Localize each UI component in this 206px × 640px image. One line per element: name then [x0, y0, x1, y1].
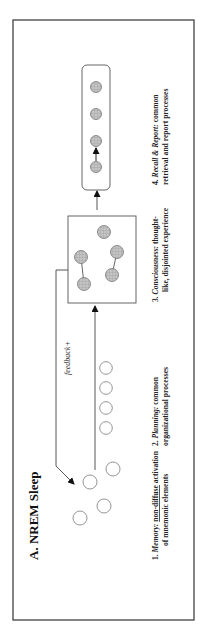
nrem-sleep-diagram: A. NREM Sleep feedback+: [0, 0, 206, 640]
svg-text:3. Consciousness: thou: 3. Consciousness: thought-: [151, 216, 160, 302]
svg-text:2. Planning: common: 2. Planning: common: [151, 376, 160, 446]
svg-text:4. Recall & Report: co: 4. Recall & Report: common: [151, 94, 160, 185]
svg-text:1. Memory: non: 1. Memory: non-diffuse activation: [151, 450, 160, 560]
svg-text:like, disjointed experience: like, disjointed experience: [161, 207, 170, 292]
svg-text:of mnemonic elements: of mnemonic elements: [161, 474, 170, 546]
svg-text:organizational processes: organizational processes: [161, 367, 170, 446]
memory-elements: [73, 462, 120, 525]
consciousness-box: [68, 216, 136, 303]
stage-label-planning: 2. Planning: common organizational proce…: [151, 367, 170, 446]
feedback-label: feedback+: [63, 341, 72, 375]
recall-report-box: [82, 65, 110, 190]
stage-label-consciousness: 3. Consciousness: thought- like, disjoin…: [151, 207, 170, 302]
figure-title: A. NREM Sleep: [26, 472, 41, 560]
stage-label-recall-report: 4. Recall & Report: common retrieval and…: [151, 89, 170, 185]
stage-label-memory: 1. Memory: non-diffuse activation of mne…: [151, 450, 170, 560]
planning-elements: [100, 362, 113, 435]
svg-text:retrieval and report processes: retrieval and report processes: [161, 89, 170, 185]
